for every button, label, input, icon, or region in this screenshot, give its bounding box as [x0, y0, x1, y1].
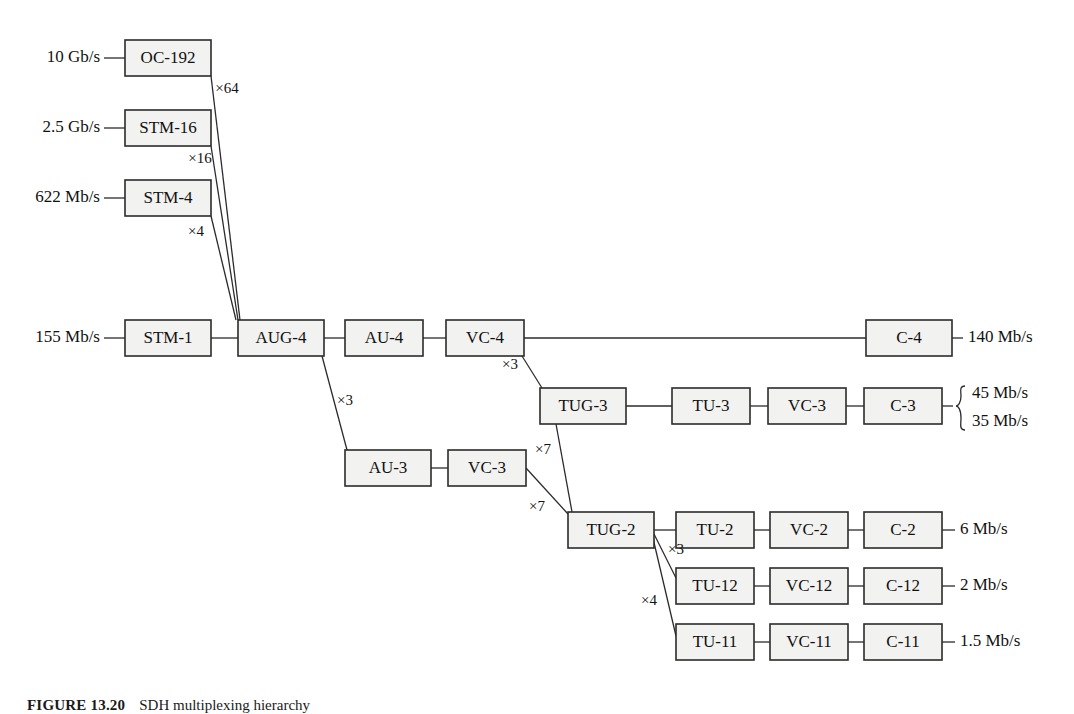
- multiplier-label: ×4: [641, 592, 657, 608]
- output-rate-label: 1.5 Mb/s: [960, 631, 1020, 650]
- input-rate-label: 622 Mb/s: [35, 187, 100, 206]
- multiplier-label: ×64: [215, 80, 239, 96]
- node-label-stm-16: STM-16: [139, 118, 197, 137]
- node-label-tu-3: TU-3: [693, 396, 730, 415]
- connector-tug3-to-tug2: [556, 424, 572, 512]
- figure-caption-label: FIGURE 13.20: [27, 697, 125, 713]
- node-label-aug-4: AUG-4: [256, 328, 307, 347]
- node-label-au-3: AU-3: [369, 458, 408, 477]
- multiplier-label: ×3: [337, 392, 353, 408]
- multiplier-label: ×16: [188, 150, 212, 166]
- node-label-stm-4: STM-4: [143, 188, 193, 207]
- figure-root: OC-192STM-16STM-4STM-1AUG-4AU-4VC-4C-4TU…: [0, 0, 1074, 714]
- node-label-tu-12: TU-12: [692, 576, 737, 595]
- output-rate-label: 6 Mb/s: [960, 519, 1008, 538]
- multiplier-label: ×7: [535, 441, 551, 457]
- node-label-au-4: AU-4: [365, 328, 404, 347]
- node-label-vc-3: VC-3: [468, 458, 506, 477]
- node-label-vc-11: VC-11: [786, 632, 832, 651]
- figure-caption-text: SDH multiplexing hierarchy: [139, 697, 310, 713]
- node-label-oc-192: OC-192: [141, 48, 196, 67]
- multiplier-label: ×3: [502, 356, 518, 372]
- sdh-hierarchy-diagram: OC-192STM-16STM-4STM-1AUG-4AU-4VC-4C-4TU…: [0, 0, 1074, 714]
- braced-rate-label: 45 Mb/s: [972, 383, 1028, 402]
- node-label-tu-11: TU-11: [693, 632, 738, 651]
- node-label-vc-3: VC-3: [788, 396, 826, 415]
- connector-vc4-to-tug3: [522, 356, 542, 388]
- input-rate-label: 10 Gb/s: [47, 47, 100, 66]
- node-label-tu-2: TU-2: [697, 520, 734, 539]
- node-label-stm-1: STM-1: [143, 328, 192, 347]
- connector-oc192-to-aug4: [211, 76, 240, 320]
- node-label-c-4: C-4: [896, 328, 922, 347]
- node-label-c-11: C-11: [886, 632, 919, 651]
- multiplier-label: ×4: [188, 223, 204, 239]
- multiplier-label: ×3: [668, 541, 684, 557]
- connector-stm4-to-aug4: [211, 216, 236, 320]
- multiplier-label: ×7: [529, 498, 545, 514]
- input-rate-label: 2.5 Gb/s: [42, 117, 100, 136]
- rate-connector-dashes: [104, 58, 963, 642]
- node-label-tug-2: TUG-2: [586, 520, 635, 539]
- node-boxes: OC-192STM-16STM-4STM-1AUG-4AU-4VC-4C-4TU…: [125, 40, 952, 660]
- rate-curly-brace: [956, 386, 965, 430]
- node-label-vc-2: VC-2: [790, 520, 828, 539]
- node-label-c-2: C-2: [890, 520, 916, 539]
- output-rate-label: 140 Mb/s: [968, 327, 1033, 346]
- output-rate-label: 2 Mb/s: [960, 575, 1008, 594]
- node-label-c-3: C-3: [890, 396, 916, 415]
- input-rate-label: 155 Mb/s: [35, 327, 100, 346]
- node-label-tug-3: TUG-3: [558, 396, 607, 415]
- node-label-vc-12: VC-12: [786, 576, 832, 595]
- figure-caption: FIGURE 13.20SDH multiplexing hierarchy: [27, 697, 310, 714]
- node-label-c-12: C-12: [886, 576, 920, 595]
- braced-rate-label: 35 Mb/s: [972, 411, 1028, 430]
- node-label-vc-4: VC-4: [466, 328, 504, 347]
- rate-brace: [956, 386, 965, 430]
